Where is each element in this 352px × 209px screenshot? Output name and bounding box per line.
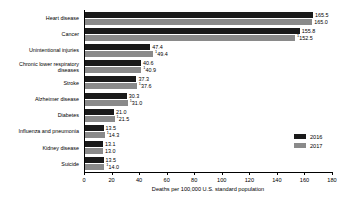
x-axis-tick-label: 60 (164, 177, 170, 184)
bar-2017 (85, 164, 104, 170)
bar-value-label: 114.3 (107, 132, 120, 138)
category-label: Heart disease (1, 15, 79, 21)
bar-value-label: 165.0 (314, 19, 328, 25)
bar-chart: Heart diseaseCancerUnintentional injurie… (0, 0, 352, 209)
bar-2017 (85, 100, 128, 106)
x-axis-tick-label: 40 (136, 177, 142, 184)
bar-2017 (85, 35, 295, 41)
category-label: Unintentional injuries (1, 47, 79, 53)
legend-item: 2016 (294, 132, 322, 141)
x-axis-tick (139, 172, 140, 175)
chart-legend: 20162017 (294, 132, 322, 150)
bar-value-label: 37.3 (138, 76, 149, 82)
x-axis-tick (84, 172, 85, 175)
bar-value-label: 21.0 (116, 109, 127, 115)
x-axis-tick (304, 172, 305, 175)
bar-2016 (85, 93, 127, 99)
bar-2016 (85, 109, 114, 115)
bar-value-label: 13.1 (105, 141, 116, 147)
legend-label: 2016 (310, 134, 322, 140)
bar-2017 (85, 67, 141, 73)
category-label: Influenza and pneumonia (1, 128, 79, 134)
legend-swatch (294, 143, 306, 148)
bar-value-label: 30.3 (129, 93, 140, 99)
bar-2016 (85, 60, 141, 66)
bar-2016 (85, 141, 103, 147)
category-label: Cancer (1, 31, 79, 37)
bar-value-label: 40.6 (143, 60, 154, 66)
bar-2017 (85, 19, 312, 25)
bar-2016 (85, 125, 104, 131)
bar-2017 (85, 83, 137, 89)
bar-value-label: 131.0 (130, 100, 143, 106)
category-label: Kidney disease (1, 145, 79, 151)
category-label: Suicide (1, 161, 79, 167)
category-axis-labels: Heart diseaseCancerUnintentional injurie… (0, 10, 82, 172)
bar-value-label: 13.0 (105, 148, 116, 154)
bar-2017 (85, 148, 103, 154)
bar-2016 (85, 28, 300, 34)
bar-value-label: 140.9 (143, 67, 156, 73)
x-axis-tick (332, 172, 333, 175)
bar-value-label: 47.4 (152, 44, 163, 50)
bar-value-label: 13.5 (106, 125, 117, 131)
bar-2016 (85, 157, 104, 163)
bar-value-label: 137.6 (139, 83, 152, 89)
x-axis-tick-label: 100 (217, 177, 226, 184)
x-axis-tick-label: 80 (191, 177, 197, 184)
legend-label: 2017 (310, 143, 322, 149)
legend-swatch (294, 134, 306, 139)
bar-value-label: 1152.5 (297, 35, 313, 41)
bar-value-label: 165.5 (315, 12, 329, 18)
x-axis-tick-label: 0 (82, 177, 85, 184)
x-axis-tick (277, 172, 278, 175)
bar-value-label: 155.8 (302, 28, 316, 34)
category-label: Stroke (1, 80, 79, 86)
x-axis-tick-label: 120 (245, 177, 254, 184)
x-axis-tick-label: 20 (108, 177, 114, 184)
bar-value-label: 149.4 (155, 51, 168, 57)
bar-value-label: 13.5 (106, 157, 117, 163)
x-axis-tick (194, 172, 195, 175)
x-axis-tick (249, 172, 250, 175)
x-axis-tick-label: 140 (272, 177, 281, 184)
bar-2017 (85, 116, 115, 122)
x-axis-tick (112, 172, 113, 175)
x-axis-tick-label: 160 (300, 177, 309, 184)
bar-2016 (85, 12, 313, 18)
bar-value-label: 121.5 (117, 116, 130, 122)
x-axis-tick (167, 172, 168, 175)
legend-item: 2017 (294, 141, 322, 150)
bar-2017 (85, 51, 153, 57)
category-label: Alzheimer disease (1, 96, 79, 102)
x-axis-title: Deaths per 100,000 U.S. standard populat… (84, 186, 332, 192)
bar-2016 (85, 76, 136, 82)
category-label: Chronic lower respiratory diseases (1, 61, 79, 73)
x-axis-line (84, 172, 332, 173)
x-axis-tick (222, 172, 223, 175)
bar-2017 (85, 132, 105, 138)
category-label: Diabetes (1, 112, 79, 118)
x-axis-tick-label: 180 (327, 177, 336, 184)
bar-2016 (85, 44, 150, 50)
bar-value-label: 114.0 (106, 164, 119, 170)
